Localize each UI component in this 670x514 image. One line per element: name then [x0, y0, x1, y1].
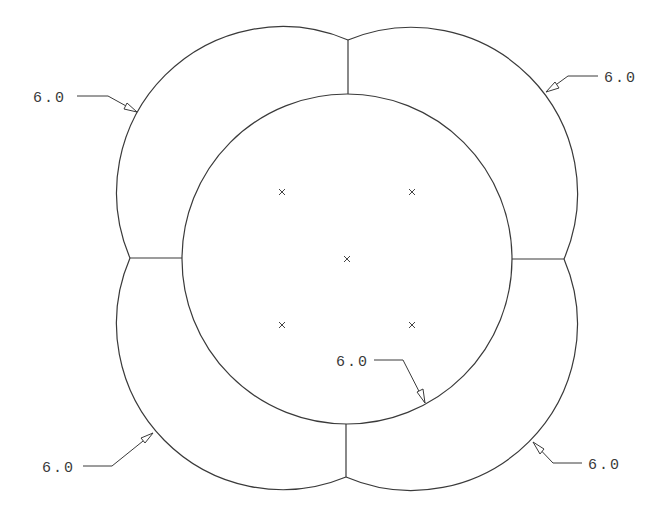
lobe-bottom-left	[116, 258, 346, 490]
dimension-label: 6.0	[42, 460, 75, 477]
center-mark-center	[344, 256, 350, 262]
center-mark-bottom-right	[409, 322, 415, 328]
dimension-label: 6.0	[33, 90, 66, 107]
dimension-top-left: 6.0	[33, 90, 137, 112]
center-mark-bottom-left	[279, 322, 285, 328]
arrowhead-icon	[417, 389, 425, 403]
dimension-label: 6.0	[604, 70, 637, 87]
lobe-top-right	[348, 27, 578, 259]
dimension-label: 6.0	[336, 354, 369, 371]
center-mark-top-right	[409, 189, 415, 195]
dimension-top-right: 6.0	[546, 70, 637, 92]
dimension-label: 6.0	[588, 457, 621, 474]
dimension-bottom-left: 6.0	[42, 433, 153, 477]
drawing-canvas: 6.0 6.0 6.0 6.0 6.0	[0, 0, 670, 514]
lobe-top-left	[117, 27, 348, 258]
center-mark-top-left	[279, 189, 285, 195]
dimension-bottom-right: 6.0	[533, 442, 621, 474]
dimension-center: 6.0	[336, 354, 425, 403]
arrowhead-icon	[124, 103, 137, 112]
lobe-bottom-right	[346, 259, 577, 490]
